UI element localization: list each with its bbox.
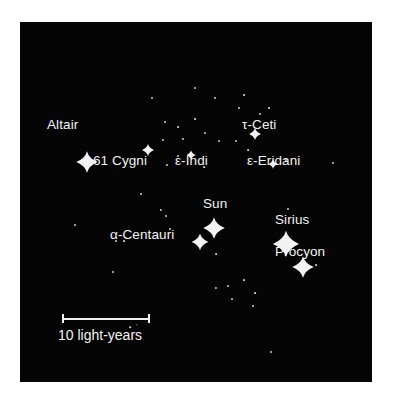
field-star [254, 292, 256, 294]
field-star [194, 87, 196, 89]
field-star [259, 113, 261, 115]
field-star [74, 224, 76, 226]
field-star [215, 253, 217, 255]
scale-bar-label: 10 light-years [58, 328, 142, 342]
field-star [194, 118, 196, 120]
bright-star-centauri [192, 234, 209, 251]
field-star [215, 287, 217, 289]
field-star [151, 97, 153, 99]
field-star [287, 208, 289, 210]
star-label-sun: Sun [203, 197, 227, 211]
field-star [165, 215, 167, 217]
star-label-indi: ε-Indi [175, 154, 208, 168]
field-star [238, 107, 240, 109]
field-star [315, 264, 317, 266]
bright-star-procyon [292, 256, 314, 278]
field-star [162, 139, 164, 141]
star-label-altair: Altair [47, 118, 78, 132]
field-star [164, 121, 166, 123]
field-star [235, 140, 237, 142]
field-star [136, 324, 137, 325]
field-star [252, 305, 254, 307]
field-star [112, 271, 114, 273]
field-star [332, 162, 334, 164]
scale-bar [62, 314, 150, 324]
scale-bar-line [62, 318, 150, 320]
field-star [214, 97, 216, 99]
star-label-ceti: τ-Ceti [242, 118, 276, 132]
scale-bar-cap-right [148, 314, 150, 323]
field-star [182, 138, 184, 140]
field-star [268, 107, 270, 109]
field-star [218, 140, 220, 142]
field-star [160, 209, 162, 211]
field-star [177, 126, 179, 128]
field-star [247, 149, 249, 151]
star-map-figure: Altair61 Cygniε-Indiτ-Cetiε-EridaniSunSi… [0, 0, 397, 397]
field-star [140, 193, 142, 195]
field-star [166, 164, 168, 166]
star-label-procyon: Procyon [275, 245, 325, 259]
star-label-centauri: α-Centauri [110, 228, 174, 242]
field-star [231, 298, 233, 300]
field-star [204, 132, 206, 134]
field-star [270, 351, 272, 353]
star-label-61-cygni: 61 Cygni [93, 154, 147, 168]
field-star [227, 285, 229, 287]
bright-star-sun [203, 217, 225, 239]
star-label-eridani: ε-Eridani [247, 154, 300, 168]
sky-panel: Altair61 Cygniε-Indiτ-Cetiε-EridaniSunSi… [20, 22, 372, 382]
field-star [243, 279, 245, 281]
star-label-sirius: Sirius [275, 213, 309, 227]
field-star [243, 94, 245, 96]
scale-bar-cap-left [62, 314, 64, 323]
